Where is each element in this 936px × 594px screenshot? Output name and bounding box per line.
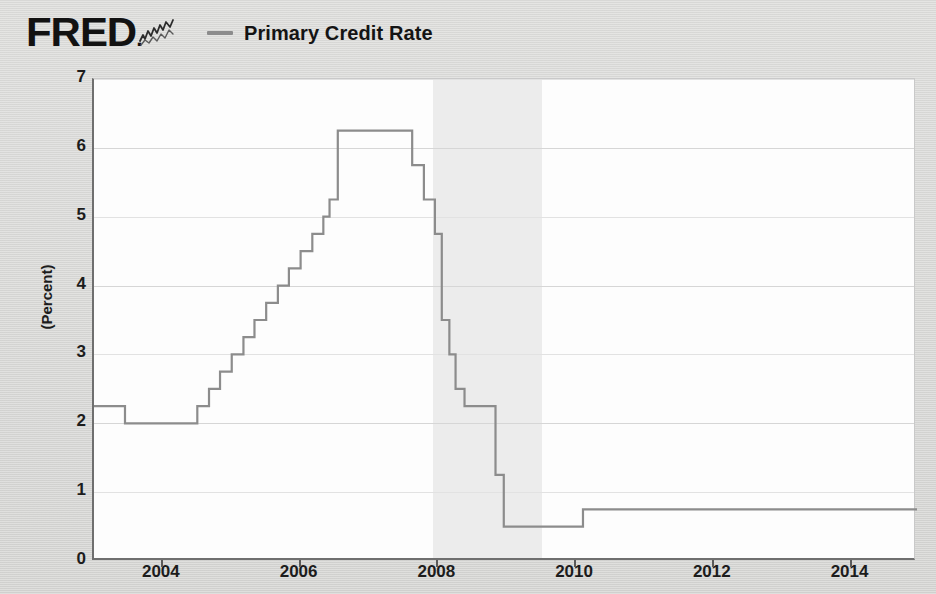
y-tick-label: 4 <box>56 274 86 294</box>
series-line <box>94 131 917 527</box>
y-tick-label: 1 <box>56 480 86 500</box>
y-tick-label: 3 <box>56 342 86 362</box>
plot-area <box>92 78 915 560</box>
legend-line-swatch <box>207 31 233 35</box>
x-tick-mark <box>436 560 438 567</box>
chart-header: FRED. Primary Credit Rate <box>0 0 936 62</box>
x-tick-mark <box>850 560 852 567</box>
x-tick-mark <box>712 560 714 567</box>
legend-series-label: Primary Credit Rate <box>244 22 433 45</box>
y-tick-label: 7 <box>56 67 86 87</box>
y-tick-label: 0 <box>56 549 86 569</box>
x-tick-mark <box>161 560 163 567</box>
y-axis-labels: 01234567 <box>48 0 86 594</box>
y-tick-label: 2 <box>56 411 86 431</box>
fred-chart-page: FRED. Primary Credit Rate (Percent) 0123… <box>0 0 936 594</box>
y-tick-label: 6 <box>56 136 86 156</box>
series-primary-credit-rate <box>94 79 917 561</box>
x-tick-mark <box>299 560 301 567</box>
line-chart-squiggle-icon <box>139 18 175 48</box>
y-tick-label: 5 <box>56 205 86 225</box>
chart-legend: Primary Credit Rate <box>207 18 433 48</box>
x-tick-mark <box>574 560 576 567</box>
